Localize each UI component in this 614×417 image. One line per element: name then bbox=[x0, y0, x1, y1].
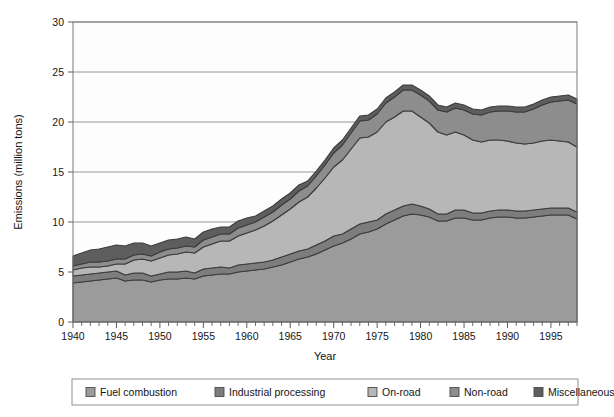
x-tick-label: 1950 bbox=[148, 330, 172, 342]
x-tick-label: 1955 bbox=[192, 330, 216, 342]
x-tick-label: 1965 bbox=[279, 330, 303, 342]
y-tick-label: 0 bbox=[58, 316, 64, 328]
y-tick-label: 5 bbox=[58, 266, 64, 278]
y-axis-title: Emissions (million tons) bbox=[12, 114, 24, 230]
legend-swatch bbox=[534, 388, 543, 397]
y-tick-label: 15 bbox=[52, 166, 64, 178]
legend-label: Fuel combustion bbox=[100, 386, 177, 398]
y-tick-label: 25 bbox=[52, 66, 64, 78]
chart-container: 1940194519501955196019651970197519801985… bbox=[0, 0, 614, 417]
legend-swatch bbox=[215, 388, 224, 397]
y-tick-label: 10 bbox=[52, 216, 64, 228]
y-tick-label: 20 bbox=[52, 116, 64, 128]
legend-swatch bbox=[86, 388, 95, 397]
y-tick-label: 30 bbox=[52, 16, 64, 28]
legend-swatch bbox=[450, 388, 459, 397]
x-tick-label: 1940 bbox=[61, 330, 85, 342]
legend-label: Non-road bbox=[464, 386, 508, 398]
x-tick-label: 1980 bbox=[409, 330, 433, 342]
x-tick-label: 1985 bbox=[452, 330, 476, 342]
x-tick-label: 1970 bbox=[322, 330, 346, 342]
legend-label: Miscellaneous bbox=[548, 386, 614, 398]
chart-legend: Fuel combustionIndustrial processingOn-r… bbox=[72, 379, 614, 405]
x-tick-label: 1960 bbox=[235, 330, 259, 342]
x-axis-title: Year bbox=[314, 350, 337, 362]
x-tick-label: 1995 bbox=[539, 330, 563, 342]
x-tick-label: 1975 bbox=[365, 330, 389, 342]
x-tick-label: 1990 bbox=[496, 330, 520, 342]
x-tick-label: 1945 bbox=[105, 330, 129, 342]
legend-swatch bbox=[368, 388, 377, 397]
stacked-area-chart: 1940194519501955196019651970197519801985… bbox=[0, 0, 614, 417]
legend-label: On-road bbox=[382, 386, 421, 398]
legend-label: Industrial processing bbox=[229, 386, 325, 398]
